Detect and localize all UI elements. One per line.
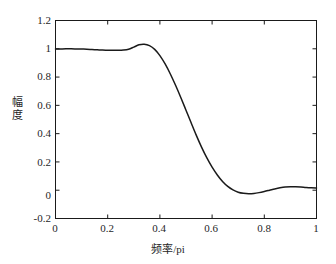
frequency-response-chart: 幅 度 频率/pi 1.2 1 0.8 0.6 0.4 0.2 0 -0.2 0… bbox=[0, 0, 336, 264]
y-tick-label-1.2: 1.2 bbox=[37, 15, 51, 26]
y-axis-label-char-2: 度 bbox=[9, 109, 25, 122]
y-tick-label-0: 0 bbox=[46, 190, 52, 201]
x-tick-label-0.6: 0.6 bbox=[200, 223, 222, 234]
x-tick-label-0: 0 bbox=[44, 223, 66, 234]
y-tick-label-1: 1 bbox=[46, 43, 52, 54]
y-tick-label-0.8: 0.8 bbox=[37, 71, 51, 82]
x-tick-label-0.8: 0.8 bbox=[253, 223, 275, 234]
y-axis-label: 幅 度 bbox=[9, 96, 25, 122]
y-tick-label-0.4: 0.4 bbox=[37, 128, 51, 139]
x-tick-label-1: 1 bbox=[305, 223, 327, 234]
x-tick-label-0.2: 0.2 bbox=[96, 223, 118, 234]
y-tick-label-0.6: 0.6 bbox=[37, 100, 51, 111]
x-axis-label: 频率/pi bbox=[0, 243, 336, 255]
y-axis-label-char-1: 幅 bbox=[9, 96, 25, 109]
y-tick-label-0.2: 0.2 bbox=[37, 157, 51, 168]
x-tick-label-0.4: 0.4 bbox=[148, 223, 170, 234]
response-curve bbox=[56, 44, 317, 194]
